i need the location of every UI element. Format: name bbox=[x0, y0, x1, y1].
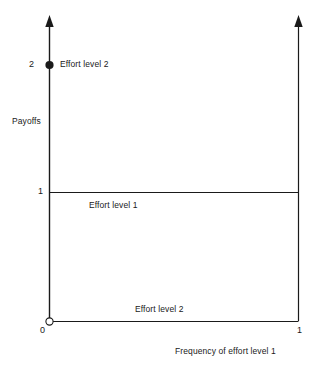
y-tick-label-1: 1 bbox=[38, 187, 43, 196]
x-axis-title: Frequency of effort level 1 bbox=[175, 347, 276, 356]
origin-open-point-marker bbox=[46, 318, 53, 325]
right-axis-arrowhead bbox=[294, 15, 302, 27]
x-tick-label-1: 1 bbox=[297, 326, 302, 335]
annotation-effort-level-1-line: Effort level 1 bbox=[89, 201, 138, 210]
annotation-effort-level-2-point: Effort level 2 bbox=[60, 60, 109, 69]
right-y-axis bbox=[294, 15, 302, 321]
y-tick-label-0: 0 bbox=[40, 326, 45, 335]
y-axis-title: Payoffs bbox=[12, 117, 41, 126]
payoffs-vs-frequency-chart: 2 1 0 1 Payoffs Frequency of effort leve… bbox=[0, 0, 328, 367]
effort-level-2-filled-point-marker bbox=[45, 61, 53, 69]
y-tick-label-2: 2 bbox=[29, 60, 34, 69]
annotation-effort-level-2-line: Effort level 2 bbox=[135, 305, 184, 314]
left-axis-arrowhead bbox=[45, 15, 53, 27]
